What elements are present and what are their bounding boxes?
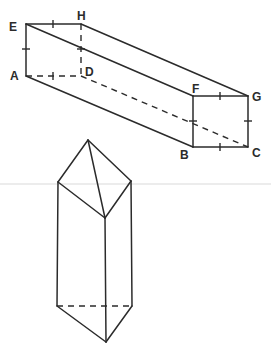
vertical-edge-front <box>105 218 106 342</box>
bottom-edge-left-front <box>57 306 106 342</box>
label-F: F <box>192 82 199 96</box>
edge-EF <box>26 24 193 96</box>
geometry-diagram: E H A D F G B C <box>0 0 271 348</box>
top-edge-right-front <box>105 181 131 218</box>
cap-edge-right <box>88 140 131 181</box>
label-D: D <box>85 65 94 79</box>
edge-AB <box>26 76 193 147</box>
cuboid: E H A D F G B C <box>9 9 261 162</box>
bottom-edge-right-front <box>106 306 132 342</box>
cap-edge-left <box>58 140 88 182</box>
vertical-edge-right <box>131 181 132 306</box>
label-B: B <box>180 148 189 162</box>
label-C: C <box>252 146 261 160</box>
hidden-edge-DC <box>81 76 248 147</box>
label-G: G <box>252 90 261 104</box>
edge-HG <box>81 24 248 96</box>
triangular-prism <box>57 140 132 342</box>
label-H: H <box>77 9 86 23</box>
vertical-edge-left <box>57 182 58 306</box>
label-E: E <box>9 20 17 34</box>
label-A: A <box>10 69 19 83</box>
